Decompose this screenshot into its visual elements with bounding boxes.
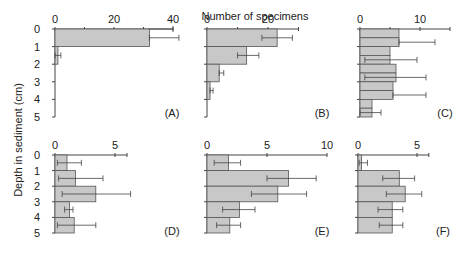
y-tick-label: 3	[34, 76, 40, 88]
panel-d: 05012345(D)	[34, 139, 180, 239]
x-tick-label: 0	[52, 13, 58, 25]
panel-label: (A)	[165, 107, 180, 119]
bar	[360, 82, 393, 91]
panel-label: (F)	[436, 225, 450, 237]
x-tick-label: 10	[321, 139, 333, 151]
bar	[360, 38, 399, 47]
panel-f: 05(F)	[355, 139, 450, 237]
bar	[360, 47, 390, 56]
x-tick-label: 5	[414, 139, 420, 151]
x-tick-label: 40	[167, 13, 179, 25]
x-axis-label: Number of specimens	[202, 10, 309, 22]
bar	[207, 82, 210, 100]
panel-c: 010(C)	[357, 13, 453, 119]
x-tick-label: 5	[112, 139, 118, 151]
panel-label: (C)	[437, 107, 452, 119]
x-tick-label: 0	[52, 139, 58, 151]
panels-group: 02040012345(A)020(B)010(C)05012345(D)051…	[34, 13, 453, 239]
y-tick-label: 2	[34, 180, 40, 192]
x-tick-label: 0	[204, 13, 210, 25]
x-tick-label: 0	[357, 13, 363, 25]
y-tick-label: 2	[34, 58, 40, 70]
bar	[360, 99, 372, 108]
bar	[207, 64, 219, 82]
panel-label: (B)	[315, 107, 330, 119]
panel-label: (D)	[164, 225, 179, 237]
panel-label: (E)	[315, 225, 330, 237]
bar	[360, 91, 393, 100]
y-tick-label: 3	[34, 196, 40, 208]
y-tick-label: 4	[34, 211, 40, 223]
y-tick-label: 4	[34, 93, 40, 105]
panel-b: 020(B)	[204, 13, 329, 119]
bar	[360, 29, 399, 38]
y-tick-label: 5	[34, 227, 40, 239]
y-tick-label: 1	[34, 41, 40, 53]
y-tick-label: 0	[34, 149, 40, 161]
bar	[360, 64, 396, 73]
y-tick-label: 1	[34, 165, 40, 177]
x-tick-label: 20	[108, 13, 120, 25]
x-tick-label: 5	[264, 139, 270, 151]
x-tick-label: 0	[204, 139, 210, 151]
x-tick-label: 0	[355, 139, 361, 151]
panel-a: 02040012345(A)	[34, 13, 179, 123]
panel-e: 0510(E)	[204, 139, 333, 237]
x-tick-label: 10	[414, 13, 426, 25]
y-axis-label: Depth in sediment (cm)	[12, 83, 24, 197]
y-tick-label: 5	[34, 111, 40, 123]
x-tick-label: 20	[262, 13, 274, 25]
figure-canvas: Number of specimens Depth in sediment (c…	[0, 0, 463, 255]
y-tick-label: 0	[34, 23, 40, 35]
bar	[55, 29, 149, 47]
